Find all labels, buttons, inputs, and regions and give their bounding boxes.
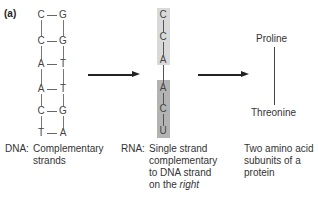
dna-caption-line1: Complementary bbox=[33, 143, 104, 155]
protein-caption-line2: subunits of a bbox=[244, 155, 301, 167]
arrow-right-icon bbox=[241, 71, 249, 77]
dna-right-base: T bbox=[58, 84, 68, 94]
dna-right-base: G bbox=[58, 10, 68, 20]
amino-acid-proline: Proline bbox=[256, 33, 287, 45]
dna-bond bbox=[47, 89, 57, 90]
dna-caption-prefix: DNA: bbox=[5, 143, 29, 155]
rna-base: C bbox=[158, 10, 168, 20]
dna-left-base: C bbox=[36, 36, 46, 46]
dna-left-base: C bbox=[36, 10, 46, 20]
rna-caption-prefix: RNA: bbox=[121, 143, 145, 155]
rna-base: U bbox=[158, 126, 168, 136]
dna-bond bbox=[47, 15, 57, 16]
dna-bond bbox=[47, 41, 57, 42]
dna-bond bbox=[47, 64, 57, 65]
rna-base: C bbox=[158, 32, 168, 42]
arrow-shaft bbox=[198, 74, 242, 76]
panel-label: (a) bbox=[4, 8, 16, 19]
rna-base: C bbox=[158, 104, 168, 114]
dna-left-base: C bbox=[36, 106, 46, 116]
dna-caption-line2: strands bbox=[33, 155, 66, 167]
rna-caption-line3: to DNA strand bbox=[149, 167, 211, 179]
peptide-bond bbox=[274, 47, 275, 105]
dna-right-base: T bbox=[58, 59, 68, 69]
dna-right-base: A bbox=[58, 128, 68, 138]
dna-left-base: A bbox=[36, 84, 46, 94]
amino-acid-threonine: Threonine bbox=[251, 107, 296, 119]
protein-caption-line3: protein bbox=[244, 167, 275, 179]
protein-caption-line1: Two amino acid bbox=[244, 143, 313, 155]
dna-bond bbox=[47, 111, 57, 112]
dna-left-base: A bbox=[36, 59, 46, 69]
rna-caption-line4: on the right bbox=[149, 179, 199, 191]
arrow-shaft bbox=[88, 74, 133, 76]
rna-caption-line1: Single strand bbox=[149, 143, 207, 155]
dna-right-base: G bbox=[58, 106, 68, 116]
rna-base: A bbox=[158, 83, 168, 93]
rna-caption-line4-italic: right bbox=[180, 179, 199, 190]
arrow-right-icon bbox=[132, 71, 140, 77]
rna-caption-line2: complementary bbox=[149, 155, 217, 167]
dna-bond bbox=[47, 133, 57, 134]
rna-caption-line4-plain: on the bbox=[149, 179, 180, 190]
rna-base: A bbox=[158, 55, 168, 65]
dna-right-base: G bbox=[58, 36, 68, 46]
dna-left-base: T bbox=[36, 128, 46, 138]
